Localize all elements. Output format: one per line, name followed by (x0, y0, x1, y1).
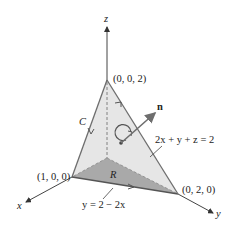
y-intercept-label: (0, 2, 0) (182, 184, 216, 196)
diagram-canvas: z x y (0, 0, 2) (1, 0, 0) (0, 2, 0) C R … (0, 0, 234, 230)
stokes-theorem-figure: z x y (0, 0, 2) (1, 0, 0) (0, 2, 0) C R … (0, 0, 234, 230)
x-intercept-label: (1, 0, 0) (37, 171, 71, 183)
y-axis-label: y (215, 208, 221, 219)
x-axis-label: x (16, 200, 22, 211)
curve-c-label: C (79, 116, 87, 127)
normal-n-label: n (157, 101, 163, 112)
region-r-label: R (109, 169, 117, 180)
boundary-line-equation-label: y = 2 − 2x (82, 199, 126, 210)
apex-point-label: (0, 0, 2) (113, 73, 147, 85)
line-leader-line (103, 188, 113, 199)
plane-equation-label: 2x + y + z = 2 (155, 134, 214, 145)
y-axis (178, 194, 213, 213)
z-axis-label: z (103, 13, 108, 24)
